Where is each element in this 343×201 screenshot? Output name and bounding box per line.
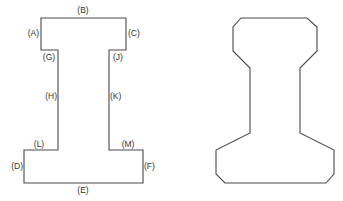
label-c: (C) (128, 28, 140, 38)
label-d: (D) (11, 161, 23, 171)
label-b: (B) (77, 5, 89, 15)
right-rail-profile (216, 18, 334, 183)
label-k: (K) (110, 91, 122, 101)
label-l: (L) (34, 139, 45, 149)
label-h: (H) (45, 91, 57, 101)
label-e: (E) (77, 185, 89, 195)
left-i-section-outline (24, 18, 143, 183)
left-i-section: (B) (A) (C) (G) (J) (H) (K) (L) (M) (D) … (11, 5, 155, 195)
label-f: (F) (144, 161, 155, 171)
diagram-canvas: (B) (A) (C) (G) (J) (H) (K) (L) (M) (D) … (0, 0, 343, 201)
right-rail-profile-outline (216, 18, 334, 183)
label-m: (M) (122, 139, 135, 149)
label-a: (A) (28, 28, 40, 38)
label-g: (G) (43, 52, 55, 62)
label-j: (J) (113, 52, 123, 62)
